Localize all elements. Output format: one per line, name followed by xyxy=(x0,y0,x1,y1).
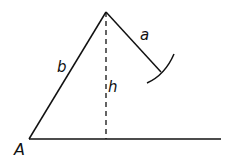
label-b: b xyxy=(57,60,67,75)
side-a xyxy=(106,12,161,72)
label-vertex-A: A xyxy=(14,142,25,158)
triangle-diagram: a b h A xyxy=(0,0,231,164)
side-b xyxy=(29,12,106,139)
label-a: a xyxy=(140,28,149,43)
arc-swing xyxy=(147,54,174,83)
label-h: h xyxy=(108,80,118,95)
